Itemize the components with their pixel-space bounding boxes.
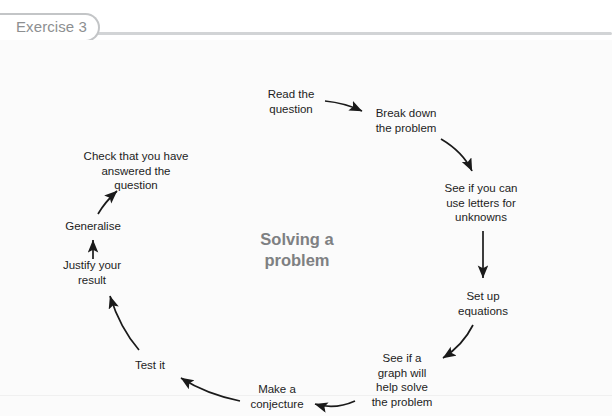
node-justify-your-result: Justify yourresult (63, 258, 121, 287)
cycle-diagram: Read thequestion Break downthe problem S… (0, 40, 612, 416)
arrow-generalise-to-check (98, 191, 117, 214)
node-use-letters: See if you canuse letters forunknowns (445, 181, 518, 225)
node-generalise: Generalise (65, 219, 121, 234)
page-root: Exercise 3 (0, 0, 612, 416)
diagram-center-title: Solving aproblem (260, 229, 333, 271)
exercise-tab-label: Exercise 3 (16, 18, 87, 35)
arrow-testit-to-justify (110, 296, 139, 350)
arrow-equations-to-graph (443, 325, 473, 358)
node-make-a-conjecture: Make aconjecture (250, 382, 303, 411)
node-read-the-question: Read thequestion (268, 87, 315, 116)
node-graph-help-solve: See if agraph willhelp solvethe problem (372, 351, 433, 409)
arrow-read-to-breakdown (325, 101, 362, 111)
arrow-conjecture-to-testit (181, 378, 240, 401)
node-set-up-equations: Set upequations (458, 289, 508, 318)
arrow-graph-to-conjecture (315, 401, 355, 406)
arrow-breakdown-to-letters (441, 139, 472, 171)
node-check-answered: Check that you haveanswered thequestion (84, 149, 189, 193)
node-break-down-problem: Break downthe problem (376, 106, 437, 135)
node-test-it: Test it (135, 358, 165, 373)
